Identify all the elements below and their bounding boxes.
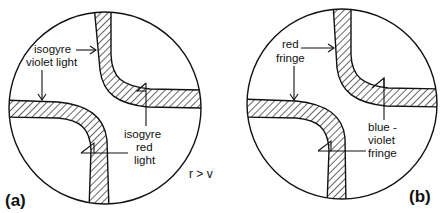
isogyre-diagram: isogyre violet light isogyre red light (… (0, 0, 441, 213)
label-blue-violet-2: violet (368, 134, 396, 146)
label-red-fringe-2: fringe (276, 52, 305, 64)
panel-b: red fringe blue - violet fringe (b) (240, 3, 441, 206)
label-blue-violet-1: blue - (368, 121, 397, 133)
panel-a: isogyre violet light isogyre red light (… (3, 5, 205, 210)
label-blue-violet-3: fringe (368, 147, 397, 159)
panel-label-a: (a) (5, 191, 26, 210)
panel-label-b: (b) (409, 187, 431, 206)
label-isogyre-red-2: red (136, 141, 153, 153)
isogyre-band-upper-right (94, 5, 205, 108)
fringe-band-lower-left (240, 99, 346, 205)
label-isogyre-violet-1: isogyre (34, 43, 71, 55)
label-red-fringe-1: red (282, 38, 299, 50)
relation-text: r > v (189, 167, 213, 181)
label-isogyre-red-3: light (134, 154, 156, 166)
fringe-band-upper-right (333, 3, 441, 107)
label-isogyre-violet-2: violet light (26, 56, 78, 68)
label-isogyre-red-1: isogyre (124, 128, 161, 140)
